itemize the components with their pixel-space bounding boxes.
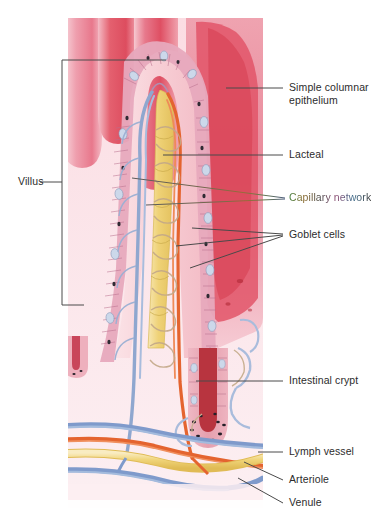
label-intestinal-crypt: Intestinal crypt (289, 374, 358, 387)
label-arteriole: Arteriole (289, 473, 329, 486)
intestinal-crypt (188, 348, 228, 448)
label-venule: Venule (289, 496, 322, 509)
label-goblet-cells: Goblet cells (289, 228, 345, 241)
crypt-stub-left (68, 336, 88, 378)
villus-illustration (68, 18, 263, 508)
label-capillary-network: Capillary network (289, 191, 371, 204)
label-simple-columnar-epithelium: Simple columnar epithelium (289, 81, 390, 107)
figure-canvas: Villus Simple columnar epithelium Lactea… (0, 0, 390, 531)
label-lacteal: Lacteal (289, 148, 324, 161)
label-villus: Villus (18, 175, 44, 188)
label-lymph-vessel: Lymph vessel (289, 445, 354, 458)
crypt-lumen (199, 348, 217, 432)
